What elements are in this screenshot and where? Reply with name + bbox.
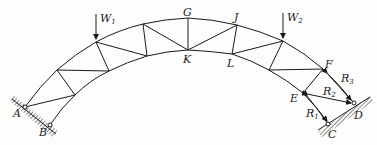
label-D: D bbox=[353, 109, 363, 122]
pin-B bbox=[48, 123, 52, 127]
label-R2: R2 bbox=[322, 85, 336, 99]
label-E: E bbox=[289, 92, 298, 105]
label-J: J bbox=[232, 11, 239, 24]
label-R3: R3 bbox=[340, 72, 354, 86]
label-B: B bbox=[38, 126, 47, 139]
label-C: C bbox=[328, 128, 337, 141]
pin-A bbox=[23, 105, 27, 109]
pin-D bbox=[352, 101, 356, 105]
truss-svg: A B C D E F G J K L W1 W2 R1 R2 R3 bbox=[0, 0, 377, 145]
label-W1: W1 bbox=[100, 12, 116, 26]
label-A: A bbox=[12, 107, 21, 120]
label-W2: W2 bbox=[287, 11, 303, 25]
label-G: G bbox=[183, 6, 192, 19]
pin-C bbox=[326, 122, 330, 126]
label-L: L bbox=[226, 57, 234, 70]
label-F: F bbox=[324, 58, 333, 71]
web-members bbox=[25, 18, 323, 107]
label-K: K bbox=[182, 53, 192, 66]
truss-diagram: A B C D E F G J K L W1 W2 R1 R2 R3 bbox=[0, 0, 377, 145]
